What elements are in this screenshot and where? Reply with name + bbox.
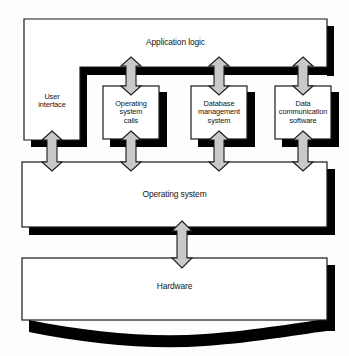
operating-system-shadow-right — [327, 169, 335, 235]
arrow-datacomm-to-os[interactable] — [293, 131, 313, 171]
hardware-shadow-wavy-bottom — [29, 318, 335, 347]
dbms-shadow-right — [247, 92, 255, 147]
arrow-app-to-os-calls[interactable] — [121, 57, 141, 95]
arrow-os-calls-to-os[interactable] — [121, 131, 141, 171]
arrow-app-to-dbms[interactable] — [209, 57, 229, 95]
arrow-ui-to-os[interactable] — [42, 131, 62, 171]
diagram-canvas: Application logic User interface Operati… — [0, 0, 349, 356]
hardware-box[interactable] — [22, 258, 327, 320]
arrow-app-to-datacomm[interactable] — [293, 57, 313, 95]
datacomm-shadow-right — [331, 92, 339, 147]
arrow-os-to-hardware[interactable] — [172, 221, 192, 268]
os-calls-shadow-right — [159, 92, 167, 147]
arrow-dbms-to-os[interactable] — [209, 131, 229, 171]
diagram-svg — [0, 0, 349, 356]
operating-system-box[interactable] — [22, 162, 327, 227]
